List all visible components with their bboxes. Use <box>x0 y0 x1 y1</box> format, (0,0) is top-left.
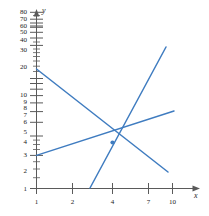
y-tick-label: 5 <box>24 128 28 135</box>
y-tick-label: 1 <box>24 185 28 192</box>
y-tick-label: 4 <box>24 138 28 145</box>
intersection-marker <box>110 140 114 144</box>
y-axis-label: y <box>42 6 46 15</box>
series-falling-line <box>37 69 169 172</box>
x-tick-label: 10 <box>169 199 176 206</box>
y-tick-label: 20 <box>20 63 27 70</box>
x-tick-label: 7 <box>147 199 151 206</box>
y-tick-label: 40 <box>20 36 27 43</box>
log-log-chart: 80 70 60 50 40 30 20 10 9 8 7 6 5 4 3 2 … <box>0 0 209 216</box>
y-tick-label: 2 <box>24 167 28 174</box>
y-tick-label-group: 80 70 60 50 40 30 20 10 9 8 7 6 5 4 3 2 … <box>0 0 27 216</box>
x-tick-label: 2 <box>71 199 75 206</box>
series-shallow-rising-line <box>37 111 175 155</box>
y-tick-label: 30 <box>20 46 27 53</box>
y-tick-label: 3 <box>24 152 28 159</box>
plot-area <box>0 0 209 216</box>
x-tick-label: 1 <box>35 199 39 206</box>
data-lines <box>37 47 175 188</box>
y-tick-label: 6 <box>24 119 28 126</box>
x-axis-label: x <box>194 191 198 200</box>
x-tick-label: 4 <box>111 199 115 206</box>
